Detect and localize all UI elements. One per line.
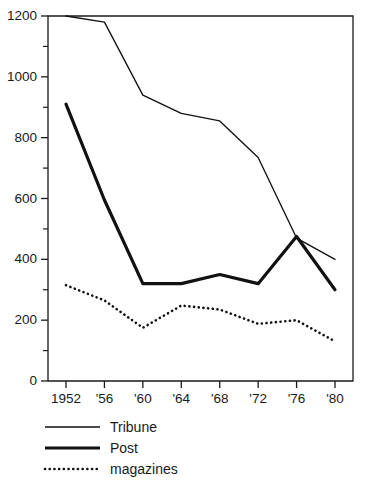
x-axis: 1952'56'60'64'68'72'76'80: [51, 381, 344, 406]
y-axis: 020040060080010001200: [7, 8, 48, 388]
y-tick-label: 200: [14, 312, 37, 327]
x-tick-label: '80: [326, 391, 344, 406]
legend-label-tribune: Tribune: [110, 419, 157, 435]
series-layer: [66, 16, 335, 341]
chart-legend: TribunePostmagazines: [45, 419, 178, 477]
x-tick-label: '76: [288, 391, 306, 406]
y-tick-label: 1000: [7, 69, 37, 84]
x-tick-label: '56: [96, 391, 114, 406]
x-tick-label: '72: [249, 391, 267, 406]
legend-label-post: Post: [110, 440, 138, 456]
line-chart: 020040060080010001200 1952'56'60'64'68'7…: [0, 0, 366, 480]
y-tick-label: 600: [14, 191, 37, 206]
series-line-post: [66, 104, 335, 290]
x-tick-label: '60: [134, 391, 152, 406]
y-tick-label: 0: [29, 373, 37, 388]
y-tick-label: 1200: [7, 8, 37, 23]
y-tick-label: 800: [14, 130, 37, 145]
x-tick-label: 1952: [51, 391, 81, 406]
x-tick-label: '68: [211, 391, 229, 406]
series-line-tribune: [66, 16, 335, 259]
y-tick-label: 400: [14, 251, 37, 266]
legend-label-magazines: magazines: [110, 461, 178, 477]
chart-canvas: 020040060080010001200 1952'56'60'64'68'7…: [0, 0, 366, 480]
series-line-magazines: [66, 285, 335, 341]
x-tick-label: '64: [172, 391, 190, 406]
